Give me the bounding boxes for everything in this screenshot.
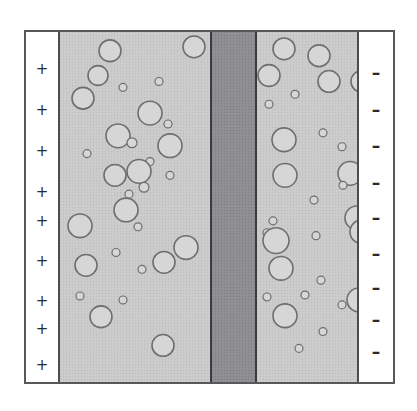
gas-bubble [263,293,271,301]
gas-bubble [319,328,327,336]
gas-bubble [263,228,289,254]
gas-bubble [106,124,130,148]
gas-bubble [338,143,346,151]
gas-bubble [273,304,297,328]
gas-bubble [76,292,84,300]
charge-plus: + [26,254,58,269]
gas-bubble [269,256,293,280]
charge-plus: + [26,214,58,229]
gas-bubble [104,164,126,186]
gas-bubble [72,87,94,109]
gas-bubble [138,265,146,273]
charge-minus: – [359,280,393,297]
charge-plus: + [26,358,58,373]
gas-bubble [310,196,318,204]
gas-bubble [90,306,112,328]
gas-bubble [317,276,325,284]
charge-plus: + [26,62,58,77]
gas-bubble [166,171,174,179]
figure-inner: + + + + + + + + + [26,32,393,382]
gas-bubble [68,214,92,238]
charge-plus: + [26,144,58,159]
gas-bubble [155,77,163,85]
gas-bubble [174,236,198,260]
charge-plus: + [26,294,58,309]
gas-bubble [319,129,327,137]
gas-bubble [312,232,320,240]
gas-bubble [164,120,172,128]
charge-minus: – [359,102,393,119]
left-electrolyte-compartment [60,32,210,382]
negative-electrode: – – – – – – – – – – [357,32,393,382]
gas-bubble [75,254,97,276]
gas-bubble [134,223,142,231]
gas-bubble [291,90,299,98]
left-gas-bubbles [60,32,210,382]
gas-bubble [119,296,127,304]
gas-bubble [114,198,138,222]
charge-minus: – [359,175,393,192]
gas-bubble [127,160,151,184]
gas-bubble [273,163,297,187]
gas-bubble [112,249,120,257]
gas-bubble [338,301,346,309]
charge-minus: – [359,312,393,329]
charge-plus: + [26,322,58,337]
membrane-texture [212,32,255,382]
gas-bubble [258,65,280,87]
gas-bubble [119,83,127,91]
gas-bubble [153,251,175,273]
gas-bubble [138,101,162,125]
figure-frame: + + + + + + + + + [24,30,395,384]
gas-bubble [88,66,108,86]
gas-bubble [125,190,133,198]
gas-bubble [265,100,273,108]
charge-minus: – [359,246,393,263]
gas-bubble [339,181,347,189]
charge-minus: – [359,376,393,382]
gas-bubble [139,182,149,192]
gas-bubble [272,128,296,152]
charge-minus: – [359,65,393,82]
charge-minus: – [359,138,393,155]
gas-bubble [127,138,137,148]
gas-bubble [183,36,205,58]
gas-bubble [295,344,303,352]
gas-bubble [152,335,174,357]
charge-minus: – [359,210,393,227]
charge-plus: + [26,103,58,118]
gas-bubble [158,134,182,158]
charge-plus: + [26,185,58,200]
charge-minus: – [359,344,393,361]
gas-bubble [301,291,309,299]
gas-bubble [318,71,340,93]
gas-bubble [83,150,91,158]
positive-electrode: + + + + + + + + + [26,32,60,382]
gas-bubble [99,40,121,62]
membrane-separator [210,32,257,382]
gas-bubble [273,38,295,60]
gas-bubble [308,45,330,67]
gas-bubble [269,217,277,225]
